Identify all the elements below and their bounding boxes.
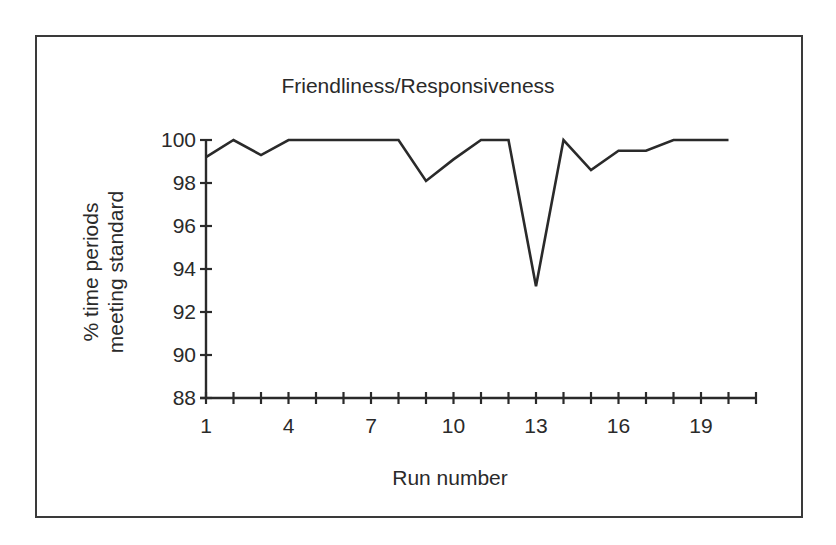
y-axis-ticks: 889092949698100 — [161, 128, 212, 409]
y-tick-label: 98 — [173, 171, 196, 194]
x-tick-label: 7 — [365, 414, 377, 437]
y-tick-label: 94 — [173, 257, 197, 280]
line-chart: 889092949698100 14710131619 — [0, 0, 836, 545]
x-tick-label: 1 — [200, 414, 212, 437]
x-tick-label: 10 — [442, 414, 465, 437]
y-tick-label: 88 — [173, 386, 196, 409]
x-tick-label: 13 — [524, 414, 547, 437]
axes — [200, 140, 756, 398]
x-tick-label: 19 — [689, 414, 712, 437]
x-tick-label: 16 — [607, 414, 630, 437]
y-tick-label: 100 — [161, 128, 196, 151]
x-tick-label: 4 — [283, 414, 295, 437]
y-tick-label: 96 — [173, 214, 196, 237]
y-tick-label: 90 — [173, 343, 196, 366]
data-line — [206, 140, 729, 286]
y-tick-label: 92 — [173, 300, 196, 323]
